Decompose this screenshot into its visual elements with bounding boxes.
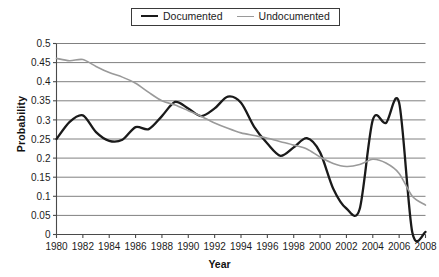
x-axis-title: Year [0, 258, 439, 270]
series-line-documented [57, 96, 426, 241]
x-tick-label: 1988 [151, 241, 174, 252]
y-tick-label: 0.05 [31, 210, 51, 221]
y-axis-title: Probability [15, 84, 27, 164]
x-tick-label: 2006 [388, 241, 411, 252]
y-tick-label: 0 [45, 229, 51, 240]
x-tick-label: 1990 [177, 241, 200, 252]
y-tick-label: 0.15 [31, 172, 51, 183]
x-tick-label: 1984 [98, 241, 121, 252]
x-tick-labels-group: 1980198219841986198819901992199419961998… [45, 241, 437, 252]
x-tick-label: 1982 [72, 241, 95, 252]
y-tick-label: 0.3 [37, 115, 51, 126]
x-tick-label: 1980 [45, 241, 68, 252]
y-tick-label: 0.25 [31, 134, 51, 145]
x-tick-label: 2000 [309, 241, 332, 252]
y-tick-label: 0.35 [31, 95, 51, 106]
y-tick-label: 0.1 [37, 191, 51, 202]
x-tick-label: 1996 [256, 241, 279, 252]
y-tick-label: 0.4 [37, 76, 51, 87]
series-group [57, 58, 426, 241]
x-tick-label: 1998 [283, 241, 306, 252]
x-tick-label: 2004 [362, 241, 385, 252]
y-tick-label: 0.2 [37, 153, 51, 164]
chart-container: Documented Undocumented 00.050.10.150.20… [0, 0, 439, 277]
x-tick-label: 1986 [124, 241, 147, 252]
y-tick-label: 0.45 [31, 57, 51, 68]
x-tick-label: 2002 [335, 241, 358, 252]
x-tick-label: 1992 [204, 241, 227, 252]
y-tick-labels-group: 00.050.10.150.20.250.30.350.40.450.5 [31, 38, 51, 240]
y-tick-label: 0.5 [37, 38, 51, 49]
chart-svg: 00.050.10.150.20.250.30.350.40.450.5 198… [0, 0, 439, 277]
plot-area: 00.050.10.150.20.250.30.350.40.450.5 198… [0, 0, 439, 277]
x-tick-label: 1994 [230, 241, 253, 252]
